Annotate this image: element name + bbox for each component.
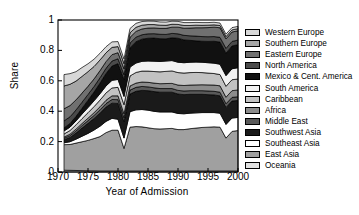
stacked-area-chart-figure: Share 00.20.40.60.81 1970197519801985199… — [0, 0, 359, 215]
x-axis-tick-labels: 1970197519801985199019952000 — [0, 172, 359, 186]
legend-item-label: Western Europe — [265, 28, 324, 37]
legend-item[interactable]: Africa — [245, 105, 359, 116]
stacked-areas — [64, 21, 238, 172]
legend-item[interactable]: Eastern Europe — [245, 49, 359, 60]
legend-item-label: Mexico & Cent. America — [265, 72, 352, 81]
legend-swatch — [245, 151, 260, 158]
legend-item[interactable]: Middle East — [245, 116, 359, 127]
legend-item[interactable]: Southeast Asia — [245, 138, 359, 149]
legend-item-label: Africa — [265, 106, 286, 115]
legend-item[interactable]: Southern Europe — [245, 38, 359, 49]
legend-swatch — [245, 140, 260, 147]
legend-item-label: East Asia — [265, 150, 299, 159]
legend-item[interactable]: Mexico & Cent. America — [245, 71, 359, 82]
legend-item-label: Caribbean — [265, 95, 303, 104]
x-tick-label: 2000 — [218, 172, 258, 182]
legend-item[interactable]: East Asia — [245, 149, 359, 160]
legend-item-label: Southwest Asia — [265, 128, 321, 137]
legend-item-label: South America — [265, 84, 318, 93]
legend-item-label: Southeast Asia — [265, 139, 320, 148]
legend-item-label: Middle East — [265, 117, 308, 126]
legend-swatch — [245, 62, 260, 69]
legend-item[interactable]: Caribbean — [245, 94, 359, 105]
legend-swatch — [245, 162, 260, 169]
legend-item[interactable]: Western Europe — [245, 27, 359, 38]
legend-item-label: Eastern Europe — [265, 50, 322, 59]
legend-item-label: Oceania — [265, 161, 296, 170]
legend-swatch — [245, 129, 260, 136]
legend-swatch — [245, 40, 260, 47]
x-axis-label: Year of Admission — [57, 186, 237, 197]
legend-swatch — [245, 118, 260, 125]
legend-swatch — [245, 85, 260, 92]
legend-item[interactable]: South America — [245, 82, 359, 93]
legend-item-label: North America — [265, 61, 317, 70]
legend-item-label: Southern Europe — [265, 39, 327, 48]
legend-item[interactable]: North America — [245, 60, 359, 71]
legend-swatch — [245, 29, 260, 36]
chart-legend: Western EuropeSouthern EuropeEastern Eur… — [245, 27, 359, 171]
legend-swatch — [245, 96, 260, 103]
legend-swatch — [245, 51, 260, 58]
legend-item[interactable]: Southwest Asia — [245, 127, 359, 138]
legend-swatch — [245, 107, 260, 114]
legend-item[interactable]: Oceania — [245, 160, 359, 171]
legend-swatch — [245, 73, 260, 80]
